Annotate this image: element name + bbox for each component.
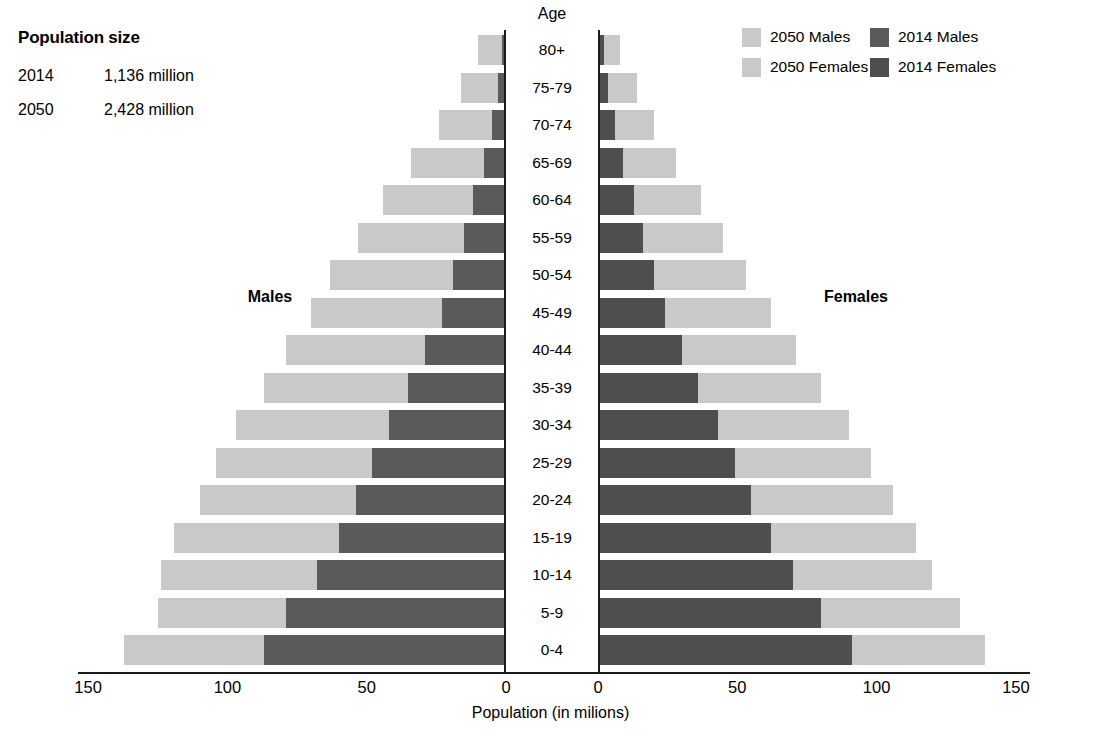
bar-2014-males xyxy=(286,598,506,628)
bar-row: 50-54 xyxy=(0,257,1101,293)
x-tick-label-right: 0 xyxy=(568,678,628,697)
age-group-label: 80+ xyxy=(506,32,598,68)
bar-2050-females xyxy=(735,448,872,478)
bar-2014-females xyxy=(598,410,718,440)
bar-2014-females xyxy=(598,485,751,515)
bar-2050-females xyxy=(623,148,676,178)
age-group-label: 0-4 xyxy=(506,632,598,668)
bar-row: 40-44 xyxy=(0,332,1101,368)
age-group-label: 55-59 xyxy=(506,220,598,256)
age-group-label: 25-29 xyxy=(506,445,598,481)
bar-2014-females xyxy=(598,298,665,328)
bar-2014-females xyxy=(598,635,852,665)
axis-line-left xyxy=(504,30,506,672)
bar-2050-females xyxy=(634,185,701,215)
bar-2050-females xyxy=(821,598,960,628)
population-pyramid-chart: Age 0-45-910-1415-1920-2425-2930-3435-39… xyxy=(0,0,1101,730)
bar-2014-males xyxy=(389,410,506,440)
bar-2050-males xyxy=(358,223,464,253)
bar-row: 70-74 xyxy=(0,107,1101,143)
age-group-label: 45-49 xyxy=(506,295,598,331)
bar-2014-females xyxy=(598,598,821,628)
x-tick-label-right: 150 xyxy=(986,678,1046,697)
bar-row: 10-14 xyxy=(0,557,1101,593)
bar-2050-males xyxy=(124,635,263,665)
age-group-label: 65-69 xyxy=(506,145,598,181)
bar-2050-males xyxy=(411,148,483,178)
bar-row: 75-79 xyxy=(0,70,1101,106)
age-group-label: 20-24 xyxy=(506,482,598,518)
age-group-label: 10-14 xyxy=(506,557,598,593)
bar-2050-males xyxy=(439,110,492,140)
bar-2014-males xyxy=(356,485,506,515)
bar-2050-females xyxy=(771,523,916,553)
bar-2014-females xyxy=(598,523,771,553)
bar-2014-males xyxy=(264,635,506,665)
bar-2014-males xyxy=(317,560,506,590)
bar-2014-females xyxy=(598,185,634,215)
bar-2014-females xyxy=(598,148,623,178)
age-group-label: 75-79 xyxy=(506,70,598,106)
bar-2014-females xyxy=(598,448,735,478)
bar-2050-females xyxy=(665,298,771,328)
bar-2050-males xyxy=(264,373,409,403)
age-axis-header: Age xyxy=(506,5,598,23)
bar-2050-females xyxy=(604,35,621,65)
bar-2050-males xyxy=(383,185,472,215)
bar-2014-females xyxy=(598,335,682,365)
bar-2050-females xyxy=(615,110,654,140)
bar-2050-males xyxy=(161,560,317,590)
bar-2050-females xyxy=(608,73,637,103)
bar-2050-females xyxy=(698,373,821,403)
bar-2014-males xyxy=(484,148,506,178)
bar-row: 30-34 xyxy=(0,407,1101,443)
bar-row: 0-4 xyxy=(0,632,1101,668)
bar-2050-females xyxy=(654,260,746,290)
bar-row: 60-64 xyxy=(0,182,1101,218)
bar-row: 25-29 xyxy=(0,445,1101,481)
bar-2050-males xyxy=(461,73,497,103)
bar-row: 65-69 xyxy=(0,145,1101,181)
bar-row: 15-19 xyxy=(0,520,1101,556)
age-group-label: 40-44 xyxy=(506,332,598,368)
bar-2050-males xyxy=(200,485,356,515)
bar-row: 45-49 xyxy=(0,295,1101,331)
age-group-label: 70-74 xyxy=(506,107,598,143)
bar-row: 20-24 xyxy=(0,482,1101,518)
bar-2050-males xyxy=(236,410,389,440)
bar-2014-males xyxy=(473,185,506,215)
bar-2014-males xyxy=(442,298,506,328)
bar-row: 5-9 xyxy=(0,595,1101,631)
x-tick-label-left: 100 xyxy=(197,678,257,697)
bar-2050-males xyxy=(286,335,425,365)
bar-row: 55-59 xyxy=(0,220,1101,256)
bar-2014-males xyxy=(339,523,506,553)
x-axis-title: Population (in milions) xyxy=(0,704,1101,722)
bar-2014-females xyxy=(598,110,615,140)
age-group-label: 5-9 xyxy=(506,595,598,631)
bar-2050-females xyxy=(682,335,796,365)
bar-2050-males xyxy=(478,35,502,65)
males-side-label: Males xyxy=(200,288,340,306)
x-tick-label-left: 0 xyxy=(476,678,536,697)
bar-2050-females xyxy=(793,560,932,590)
bar-2050-males xyxy=(158,598,286,628)
age-group-label: 35-39 xyxy=(506,370,598,406)
bar-2014-males xyxy=(453,260,506,290)
bar-2050-females xyxy=(852,635,986,665)
x-tick-label-left: 150 xyxy=(58,678,118,697)
age-group-label: 50-54 xyxy=(506,257,598,293)
x-tick-label-left: 50 xyxy=(337,678,397,697)
bar-2014-females xyxy=(598,260,654,290)
age-group-label: 60-64 xyxy=(506,182,598,218)
bar-row: 80+ xyxy=(0,32,1101,68)
bar-2014-males xyxy=(408,373,506,403)
x-tick-label-right: 50 xyxy=(707,678,767,697)
bar-2050-females xyxy=(718,410,849,440)
bar-2014-females xyxy=(598,560,793,590)
bar-2050-females xyxy=(751,485,893,515)
bar-2014-males xyxy=(425,335,506,365)
bar-2050-males xyxy=(330,260,453,290)
bar-2014-females xyxy=(598,223,643,253)
females-side-label: Females xyxy=(786,288,926,306)
